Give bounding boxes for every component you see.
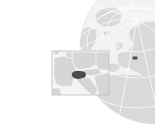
map-canvas [0,0,155,125]
locator-map [0,0,155,125]
globe-highlight-switzerland [133,57,138,60]
inset-map [52,51,110,96]
